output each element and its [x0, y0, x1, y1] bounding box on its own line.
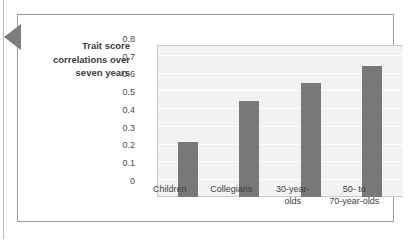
- bar[interactable]: [239, 101, 259, 197]
- y-axis-tick-labels: 00.10.20.30.40.50.60.70.8: [103, 30, 135, 181]
- x-axis-category-label-line: 30-year-: [262, 184, 324, 196]
- bar[interactable]: [301, 83, 321, 197]
- x-axis-category-label-line: Children: [139, 184, 201, 196]
- y-axis-tick-label: 0.6: [122, 69, 135, 79]
- left-triangle-marker-icon: [4, 24, 21, 50]
- plot-area: [157, 45, 403, 197]
- x-axis-category-label-line: 50- to: [324, 184, 386, 196]
- y-axis-tick-label: 0: [130, 176, 135, 186]
- bar-slot: [157, 46, 219, 197]
- y-axis-tick-label: 0.3: [122, 123, 135, 133]
- bar[interactable]: [362, 66, 382, 197]
- y-axis-tick-label: 0.5: [122, 87, 135, 97]
- x-axis-category-label: Collegians: [201, 184, 263, 196]
- x-axis-category-label-line: 70-year-olds: [324, 196, 386, 208]
- x-axis-category-labels: ChildrenCollegians30-year-olds50- to70-y…: [139, 184, 385, 218]
- x-axis-category-label: 50- to70-year-olds: [324, 184, 386, 207]
- y-axis-tick-label: 0.8: [122, 34, 135, 44]
- x-axis-category-label-line: Collegians: [201, 184, 263, 196]
- x-axis-category-label-line: olds: [262, 196, 324, 208]
- y-axis-tick-label: 0.1: [122, 158, 135, 168]
- x-axis-category-label: Children: [139, 184, 201, 196]
- bars-layer: [157, 46, 403, 197]
- x-axis-category-label: 30-year-olds: [262, 184, 324, 207]
- y-axis-tick-label: 0.7: [122, 52, 135, 62]
- bar-slot: [342, 46, 404, 197]
- bar-slot: [280, 46, 342, 197]
- y-axis-tick-label: 0.2: [122, 140, 135, 150]
- bar-slot: [219, 46, 281, 197]
- y-axis-tick-label: 0.4: [122, 105, 135, 115]
